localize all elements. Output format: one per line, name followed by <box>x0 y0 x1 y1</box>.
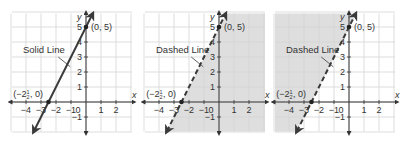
x-tick-label: −3 <box>299 105 309 115</box>
plotted-point <box>347 25 352 30</box>
point-label-neg-2-half-0: (−212, 0) <box>146 89 176 100</box>
y-tick-label: 1 <box>77 82 82 92</box>
plotted-point <box>179 100 184 105</box>
solid-boundary-line <box>34 14 93 131</box>
x-axis-label: x <box>264 90 270 100</box>
callout-leader-line <box>191 57 203 67</box>
y-tick-label: 3 <box>210 52 215 62</box>
y-tick-label: 1 <box>210 82 215 92</box>
y-tick-label: 3 <box>77 52 82 62</box>
x-tick-label: 2 <box>113 105 118 115</box>
line-callout-label: Dashed Line <box>156 44 209 55</box>
x-tick-label: 1 <box>231 105 236 115</box>
x-tick-label: 2 <box>246 105 251 115</box>
y-tick-label: 5 <box>340 22 345 32</box>
x-tick-label: 2 <box>376 105 381 115</box>
y-axis-label: y <box>209 12 215 22</box>
x-tick-label: −4 <box>21 105 31 115</box>
y-tick-label: 3 <box>340 52 345 62</box>
y-tick-label: 2 <box>210 67 215 77</box>
graph-panel-solid-line: −4−3−2−101212345−1xy(0, 5)(−212, 0)Solid… <box>10 12 137 134</box>
y-tick-label: 2 <box>340 67 345 77</box>
y-tick-label: 5 <box>77 22 82 32</box>
point-label-0-5: (0, 5) <box>91 22 112 32</box>
graph-panel-dashed-shaded-left: −4−3−2−101212345−1xy(0, 5)(−212, 0)Dashe… <box>273 12 400 134</box>
point-label-neg-2-half-0: (−212, 0) <box>276 89 306 100</box>
x-tick-label: −3 <box>169 105 179 115</box>
x-tick-label: −2 <box>184 105 194 115</box>
plotted-point <box>84 25 89 30</box>
x-tick-label: 1 <box>361 105 366 115</box>
point-label-0-5: (0, 5) <box>224 22 245 32</box>
plotted-point <box>217 25 222 30</box>
y-tick-label: 2 <box>77 67 82 77</box>
x-tick-label: 1 <box>98 105 103 115</box>
y-axis-label: y <box>76 12 82 22</box>
graphs-canvas: −4−3−2−101212345−1xy(0, 5)(−212, 0)Solid… <box>0 0 413 146</box>
x-tick-label: −2 <box>51 105 61 115</box>
graph-panel-dashed-shaded-right: −4−3−2−101212345−1xy(0, 5)(−212, 0)Dashe… <box>143 12 270 134</box>
y-tick-label: −1 <box>205 112 215 122</box>
x-tick-label: −2 <box>314 105 324 115</box>
y-tick-label: −1 <box>72 112 82 122</box>
line-callout-label: Dashed Line <box>286 44 339 55</box>
point-label-0-5: (0, 5) <box>354 22 375 32</box>
x-axis-label: x <box>394 90 400 100</box>
y-tick-label: 5 <box>210 22 215 32</box>
x-tick-label: −4 <box>284 105 294 115</box>
y-tick-label: 1 <box>340 82 345 92</box>
x-tick-label: −4 <box>154 105 164 115</box>
y-tick-label: −1 <box>335 112 345 122</box>
point-label-neg-2-half-0: (−212, 0) <box>13 89 43 100</box>
plotted-point <box>46 100 51 105</box>
plotted-point <box>309 100 314 105</box>
x-axis-label: x <box>131 90 137 100</box>
y-axis-label: y <box>339 12 345 22</box>
line-callout-label: Solid Line <box>23 44 65 55</box>
